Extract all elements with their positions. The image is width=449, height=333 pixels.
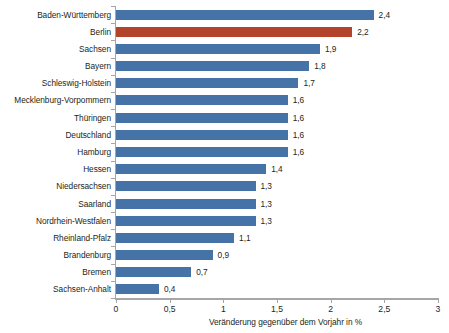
category-label: Mecklenburg-Vorpommern [0, 95, 111, 105]
bar-value-label: 1,8 [314, 61, 325, 71]
y-axis-tick [111, 178, 115, 179]
y-axis-tick [111, 92, 115, 93]
bar-row: 1,6 [116, 147, 438, 157]
bar-value-label: 0,4 [164, 284, 175, 294]
plot-area: 2,42,21,91,81,71,61,61,61,61,41,31,31,31… [116, 6, 438, 298]
y-axis-tick [111, 23, 115, 24]
y-axis-tick [111, 264, 115, 265]
bar [116, 95, 288, 105]
bar [116, 181, 256, 191]
category-label: Sachsen [0, 44, 111, 54]
category-label: Brandenburg [0, 250, 111, 260]
category-label: Bayern [0, 61, 111, 71]
bar-row: 1,7 [116, 78, 438, 88]
category-label: Hamburg [0, 147, 111, 157]
bar-row: 1,3 [116, 199, 438, 209]
bar [116, 78, 298, 88]
bar-row: 1,1 [116, 233, 438, 243]
bar-value-label: 1,3 [261, 181, 272, 191]
bar [116, 147, 288, 157]
bar-value-label: 2,4 [379, 10, 390, 20]
category-label: Saarland [0, 199, 111, 209]
category-label: Schleswig-Holstein [0, 78, 111, 88]
category-label: Deutschland [0, 130, 111, 140]
bar-value-label: 1,6 [293, 113, 304, 123]
y-axis-line [115, 6, 116, 298]
bar [116, 250, 213, 260]
category-label: Nordrhein-Westfalen [0, 216, 111, 226]
bar [116, 199, 256, 209]
bar-value-label: 0,9 [218, 250, 229, 260]
y-axis-tick [111, 195, 115, 196]
bar-row: 2,2 [116, 27, 438, 37]
category-label: Baden-Württemberg [0, 10, 111, 20]
bar [116, 113, 288, 123]
category-label: Thüringen [0, 113, 111, 123]
x-axis-tick [331, 299, 332, 303]
x-axis-tick-label: 0 [114, 304, 119, 314]
bar-value-label: 1,4 [271, 164, 282, 174]
bar-value-label: 1,9 [325, 44, 336, 54]
x-axis-tick-label: 1,5 [271, 304, 283, 314]
y-axis-tick [111, 109, 115, 110]
category-label: Hessen [0, 164, 111, 174]
x-axis-tick [384, 299, 385, 303]
bar-value-label: 1,6 [293, 147, 304, 157]
y-axis-tick [111, 281, 115, 282]
y-axis-tick [111, 75, 115, 76]
category-label: Rheinland-Pfalz [0, 233, 111, 243]
x-axis-tick [170, 299, 171, 303]
bar-value-label: 2,2 [357, 27, 368, 37]
x-axis-tick [438, 299, 439, 303]
bar-row: 0,7 [116, 267, 438, 277]
bar-row: 0,4 [116, 284, 438, 294]
y-axis-tick [111, 229, 115, 230]
x-axis-tick-label: 2 [328, 304, 333, 314]
bar [116, 267, 191, 277]
x-axis-tick [116, 299, 117, 303]
bar-row: 1,4 [116, 164, 438, 174]
category-axis: Baden-WürttembergBerlinSachsenBayernSchl… [0, 6, 111, 298]
y-axis-tick [111, 6, 115, 7]
bar-value-label: 1,6 [293, 130, 304, 140]
bar-row: 1,6 [116, 95, 438, 105]
y-axis-tick [111, 298, 115, 299]
bar-value-label: 1,7 [303, 78, 314, 88]
bar-value-label: 1,6 [293, 95, 304, 105]
bar-row: 1,8 [116, 61, 438, 71]
bar-chart: Baden-WürttembergBerlinSachsenBayernSchl… [0, 0, 449, 333]
category-label: Berlin [0, 27, 111, 37]
bar-highlight [116, 27, 352, 37]
bar [116, 164, 266, 174]
category-label: Sachsen-Anhalt [0, 284, 111, 294]
bar [116, 233, 234, 243]
bar-value-label: 1,3 [261, 199, 272, 209]
category-label: Niedersachsen [0, 181, 111, 191]
bar-row: 1,6 [116, 113, 438, 123]
bar [116, 216, 256, 226]
bar-row: 1,9 [116, 44, 438, 54]
bar-row: 1,3 [116, 181, 438, 191]
bar-row: 2,4 [116, 10, 438, 20]
bar-row: 1,6 [116, 130, 438, 140]
x-axis-tick-label: 2,5 [378, 304, 390, 314]
bar [116, 44, 320, 54]
y-axis-tick [111, 58, 115, 59]
x-axis-tick-label: 3 [436, 304, 441, 314]
x-axis-tick-label: 0,5 [164, 304, 176, 314]
y-axis-tick [111, 126, 115, 127]
bar-row: 1,3 [116, 216, 438, 226]
y-axis-tick [111, 161, 115, 162]
y-axis-tick [111, 246, 115, 247]
y-axis-tick [111, 143, 115, 144]
bar [116, 284, 159, 294]
category-label: Bremen [0, 267, 111, 277]
y-axis-tick [111, 212, 115, 213]
bar-value-label: 0,7 [196, 267, 207, 277]
x-axis-tick-label: 1 [221, 304, 226, 314]
x-axis-tick [277, 299, 278, 303]
y-axis-tick [111, 40, 115, 41]
x-axis-tick [223, 299, 224, 303]
bar [116, 10, 374, 20]
bar [116, 61, 309, 71]
